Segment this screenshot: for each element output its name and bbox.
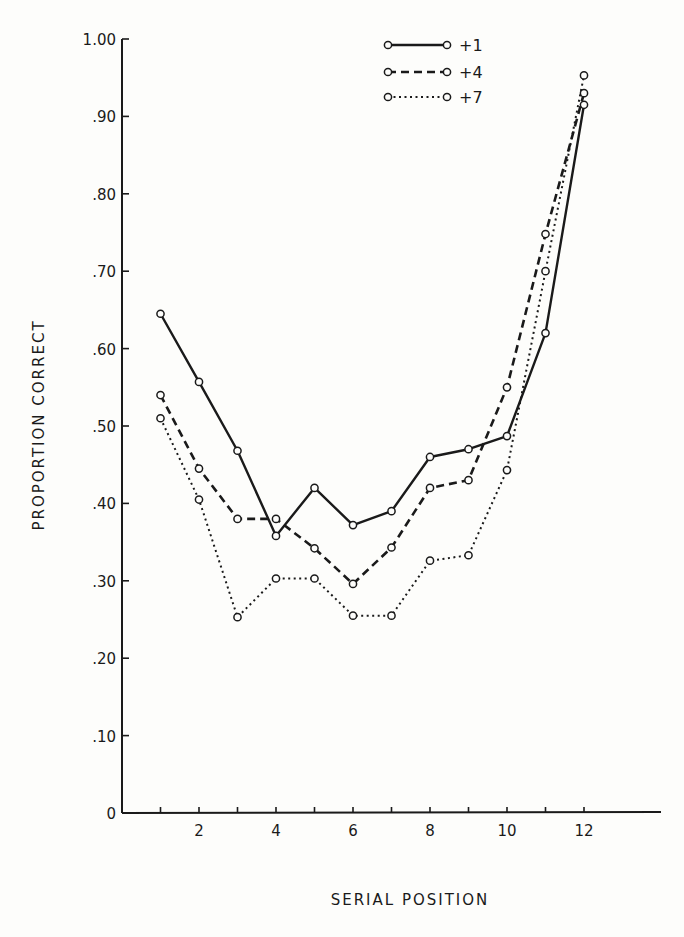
data-point-marker — [503, 467, 510, 474]
y-tick-label: .80 — [92, 186, 116, 204]
x-axis-title: SERIAL POSITION — [331, 891, 490, 909]
legend-marker — [384, 68, 391, 75]
data-point-marker — [157, 391, 164, 398]
x-tick-label: 6 — [348, 822, 358, 840]
series-line — [161, 75, 585, 617]
data-point-marker — [349, 521, 356, 528]
data-point-marker — [426, 453, 433, 460]
data-point-marker — [157, 310, 164, 317]
data-point-marker — [426, 557, 433, 564]
series-line — [161, 93, 585, 584]
data-point-marker — [349, 580, 356, 587]
data-point-marker — [503, 432, 510, 439]
data-point-marker — [272, 532, 279, 539]
data-point-marker — [195, 496, 202, 503]
data-point-marker — [349, 612, 356, 619]
legend-label: +4 — [459, 63, 483, 82]
y-tick-label: .30 — [92, 573, 116, 591]
y-tick-label: .10 — [92, 728, 116, 746]
y-tick-label: .60 — [92, 341, 116, 359]
data-point-marker — [195, 465, 202, 472]
legend-marker — [443, 93, 450, 100]
y-tick-label: .70 — [92, 263, 116, 281]
x-tick-label: 12 — [574, 822, 593, 840]
y-tick-label: 0 — [106, 805, 116, 823]
legend-item: +1 — [384, 36, 482, 55]
data-point-marker — [311, 575, 318, 582]
data-point-marker — [426, 484, 433, 491]
plot-area — [157, 72, 588, 621]
data-point-marker — [157, 415, 164, 422]
legend: +1+4+7 — [384, 36, 482, 107]
legend-item: +4 — [384, 63, 482, 82]
y-tick-label: 1.00 — [83, 31, 116, 49]
x-tick-label: 8 — [425, 822, 435, 840]
legend-marker — [443, 68, 450, 75]
x-tick-label: 10 — [497, 822, 516, 840]
data-point-marker — [388, 612, 395, 619]
data-point-marker — [272, 575, 279, 582]
legend-marker — [443, 41, 450, 48]
y-axis: 0.10.20.30.40.50.60.70.80.901.00 — [83, 31, 129, 823]
data-point-marker — [503, 384, 510, 391]
data-point-marker — [580, 72, 587, 79]
y-tick-label: .20 — [92, 650, 116, 668]
legend-marker — [384, 41, 391, 48]
y-tick-label: .90 — [92, 108, 116, 126]
x-axis: 24681012 — [122, 807, 661, 840]
legend-item: +7 — [384, 88, 482, 107]
data-point-marker — [272, 515, 279, 522]
data-point-marker — [465, 446, 472, 453]
data-point-marker — [234, 614, 241, 621]
y-tick-label: .50 — [92, 418, 116, 436]
serial-position-chart: 0.10.20.30.40.50.60.70.80.901.00 2468101… — [0, 0, 684, 937]
y-axis-title: PROPORTION CORRECT — [30, 319, 48, 530]
data-point-marker — [234, 515, 241, 522]
data-point-marker — [542, 268, 549, 275]
data-point-marker — [542, 230, 549, 237]
series-plus-4 — [157, 90, 588, 588]
data-point-marker — [542, 330, 549, 337]
data-point-marker — [388, 544, 395, 551]
data-point-marker — [311, 545, 318, 552]
x-tick-label: 4 — [271, 822, 281, 840]
y-tick-label: .40 — [92, 495, 116, 513]
series-line — [161, 105, 585, 536]
data-point-marker — [465, 477, 472, 484]
legend-marker — [384, 93, 391, 100]
series-plus-7 — [157, 72, 588, 621]
x-tick-label: 2 — [194, 822, 204, 840]
data-point-marker — [465, 552, 472, 559]
data-point-marker — [234, 447, 241, 454]
legend-label: +7 — [459, 88, 483, 107]
data-point-marker — [311, 484, 318, 491]
data-point-marker — [388, 508, 395, 515]
legend-label: +1 — [459, 36, 483, 55]
data-point-marker — [195, 378, 202, 385]
